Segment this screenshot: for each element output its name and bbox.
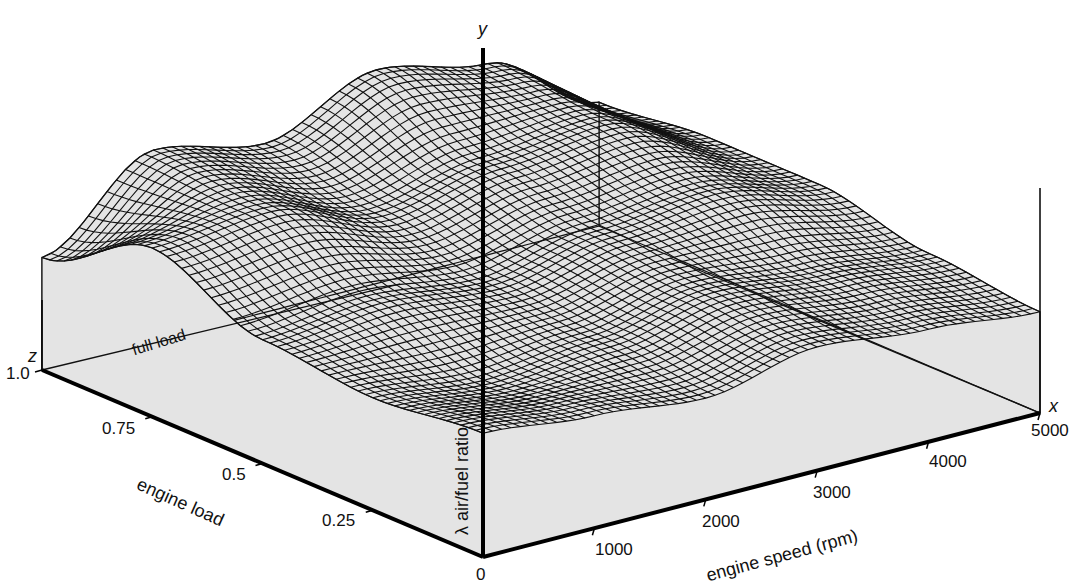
x-tick-5000: 5000 [1031, 421, 1069, 441]
z-tick-0.25: 0.25 [322, 511, 355, 531]
z-tick-1.0: 1.0 [6, 364, 30, 384]
origin-label: 0 [476, 565, 485, 585]
z-tick-0.75: 0.75 [102, 419, 135, 439]
x-tick-4000: 4000 [929, 452, 967, 472]
x-tick-2000: 2000 [702, 512, 740, 532]
x-tick-1000: 1000 [595, 540, 633, 560]
y-axis-letter: y [478, 19, 487, 40]
x-axis-letter: x [1049, 396, 1058, 417]
x-tick-3000: 3000 [813, 483, 851, 503]
z-tick-0.5: 0.5 [222, 465, 246, 485]
y-axis-title: λ air/fuel ratio [452, 427, 473, 535]
